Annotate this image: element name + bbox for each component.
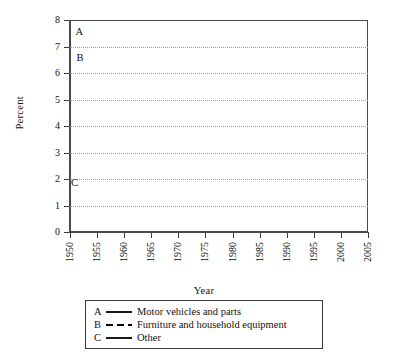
legend-row: COther xyxy=(94,331,316,344)
legend-key-letter: C xyxy=(94,332,106,343)
legend-line-swatch xyxy=(106,333,132,343)
legend-label: Furniture and household equipment xyxy=(137,319,316,330)
x-tick-mark xyxy=(151,233,152,238)
legend-label: Other xyxy=(137,332,316,343)
legend-label: Motor vehicles and parts xyxy=(137,306,316,317)
y-tick-label: 5 xyxy=(20,95,60,105)
x-axis-title: Year xyxy=(0,285,408,296)
x-tick-label: 1970 xyxy=(173,242,183,262)
x-tick-label: 1975 xyxy=(200,242,210,262)
x-tick-label: 1995 xyxy=(309,242,319,262)
gridline xyxy=(70,73,368,74)
y-axis-line xyxy=(69,20,70,233)
y-tick-mark xyxy=(64,47,69,48)
x-tick-mark xyxy=(368,233,369,238)
y-tick-mark xyxy=(64,153,69,154)
y-tick-label: 8 xyxy=(20,15,60,25)
x-tick-label: 2000 xyxy=(336,242,346,262)
gridline xyxy=(70,126,368,127)
y-tick-label: 2 xyxy=(20,174,60,184)
y-tick-mark xyxy=(64,126,69,127)
y-tick-label: 0 xyxy=(20,227,60,237)
x-tick-label: 1965 xyxy=(146,242,156,262)
y-tick-mark xyxy=(64,179,69,180)
y-axis-title: Percent xyxy=(14,96,25,130)
legend-row: BFurniture and household equipment xyxy=(94,318,316,331)
x-tick-mark xyxy=(287,233,288,238)
x-tick-mark xyxy=(97,233,98,238)
series-letter-A: A xyxy=(75,27,83,37)
x-tick-label: 1990 xyxy=(282,242,292,262)
series-letter-B: B xyxy=(77,53,84,63)
gridline xyxy=(70,47,368,48)
y-tick-label: 4 xyxy=(20,121,60,131)
chart-legend: AMotor vehicles and partsBFurniture and … xyxy=(85,300,323,349)
x-tick-mark xyxy=(233,233,234,238)
x-tick-mark xyxy=(70,233,71,238)
x-tick-label: 1985 xyxy=(255,242,265,262)
x-tick-label: 1980 xyxy=(228,242,238,262)
x-tick-mark xyxy=(314,233,315,238)
y-tick-mark xyxy=(64,73,69,74)
x-tick-label: 2005 xyxy=(363,242,373,262)
y-tick-label: 6 xyxy=(20,68,60,78)
x-tick-label: 1955 xyxy=(92,242,102,262)
x-tick-mark xyxy=(260,233,261,238)
x-tick-label: 1960 xyxy=(119,242,129,262)
legend-key-letter: A xyxy=(94,306,106,317)
y-tick-label: 7 xyxy=(20,42,60,52)
legend-line-swatch xyxy=(106,320,132,330)
plot-area: ABC xyxy=(70,20,368,232)
y-tick-mark xyxy=(64,100,69,101)
legend-row: AMotor vehicles and parts xyxy=(94,305,316,318)
y-tick-label: 3 xyxy=(20,148,60,158)
x-tick-mark xyxy=(124,233,125,238)
x-tick-mark xyxy=(178,233,179,238)
x-axis-line xyxy=(69,232,369,233)
x-tick-mark xyxy=(341,233,342,238)
y-tick-label: 1 xyxy=(20,201,60,211)
gridline xyxy=(70,206,368,207)
figure: ABC 012345678 19501955196019651970197519… xyxy=(0,0,408,361)
y-tick-mark xyxy=(64,206,69,207)
x-tick-mark xyxy=(205,233,206,238)
x-tick-label: 1950 xyxy=(65,242,75,262)
series-letter-C: C xyxy=(71,178,78,188)
legend-line-swatch xyxy=(106,307,132,317)
gridline xyxy=(70,153,368,154)
y-tick-mark xyxy=(64,20,69,21)
y-tick-mark xyxy=(64,232,69,233)
gridline xyxy=(70,100,368,101)
gridline xyxy=(70,179,368,180)
legend-key-letter: B xyxy=(94,319,106,330)
